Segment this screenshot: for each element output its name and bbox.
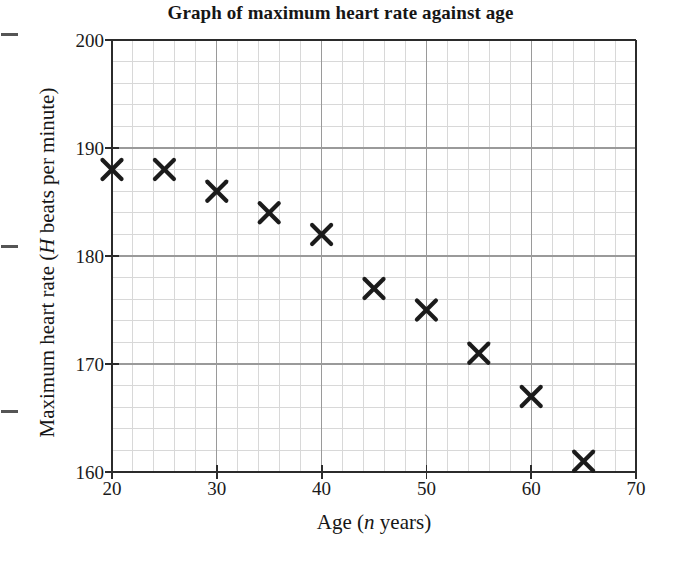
data-points-layer: 20, 18825, 18830, 18635, 18440, 18245, 1…: [112, 40, 636, 472]
data-point: 45, 177: [365, 279, 384, 298]
x-axis-tick-label: 70: [606, 478, 666, 500]
y-axis-title-prefix: Maximum heart rate (: [35, 254, 59, 438]
x-axis-title-suffix: years): [375, 510, 432, 534]
y-axis-tick-labels: 160170180190200: [52, 40, 104, 472]
data-point: 60, 167: [522, 387, 541, 406]
plot-area: 20, 18825, 18830, 18635, 18440, 18245, 1…: [112, 40, 636, 472]
data-point: 65, 161: [574, 452, 593, 471]
data-point: 25, 188: [155, 160, 174, 179]
y-axis-variable: H: [35, 239, 59, 254]
data-point: 50, 175: [417, 301, 436, 320]
x-axis-variable: n: [364, 510, 375, 534]
y-axis-tick-label: 200: [58, 31, 104, 50]
page-edge-mark: [1, 245, 18, 248]
y-axis-tick-label: 170: [58, 355, 104, 374]
page-edge-mark: [1, 410, 18, 413]
y-axis-title: Maximum heart rate (H beats per minute): [35, 53, 60, 473]
x-axis-title: Age (n years): [112, 510, 636, 535]
data-point: 20, 188: [103, 160, 122, 179]
data-point: 35, 184: [260, 203, 279, 222]
y-axis-title-suffix: beats per minute): [35, 88, 59, 239]
y-axis-tick-label: 190: [58, 139, 104, 158]
chart-title: Graph of maximum heart rate against age: [0, 2, 681, 24]
x-axis-title-prefix: Age (: [317, 510, 364, 534]
y-axis-tick-label: 180: [58, 247, 104, 266]
x-axis-tick-label: 50: [396, 478, 456, 500]
x-axis-tick-labels: 203040506070: [112, 478, 636, 504]
data-point: 55, 171: [469, 344, 488, 363]
data-point: 30, 186: [207, 182, 226, 201]
data-point: 40, 182: [312, 225, 331, 244]
x-axis-tick-label: 20: [82, 478, 142, 500]
x-axis-tick-label: 40: [292, 478, 352, 500]
x-axis-tick-label: 30: [187, 478, 247, 500]
chart-figure: Graph of maximum heart rate against age …: [0, 0, 681, 572]
page-edge-mark: [1, 33, 18, 36]
x-axis-tick-label: 60: [501, 478, 561, 500]
